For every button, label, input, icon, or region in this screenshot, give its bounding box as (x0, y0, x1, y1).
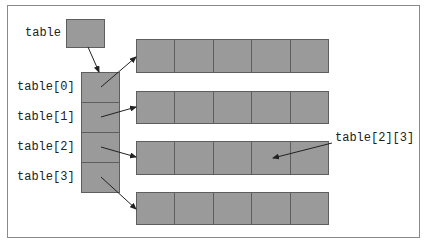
arrow-row-1 (101, 107, 136, 117)
arrow-row-0 (101, 57, 136, 87)
arrow-table-to-column (88, 47, 99, 72)
arrow-row-2 (101, 147, 136, 157)
pointer-arrows (0, 0, 426, 246)
arrow-element-2-3 (273, 143, 332, 158)
arrow-row-3 (101, 177, 136, 209)
